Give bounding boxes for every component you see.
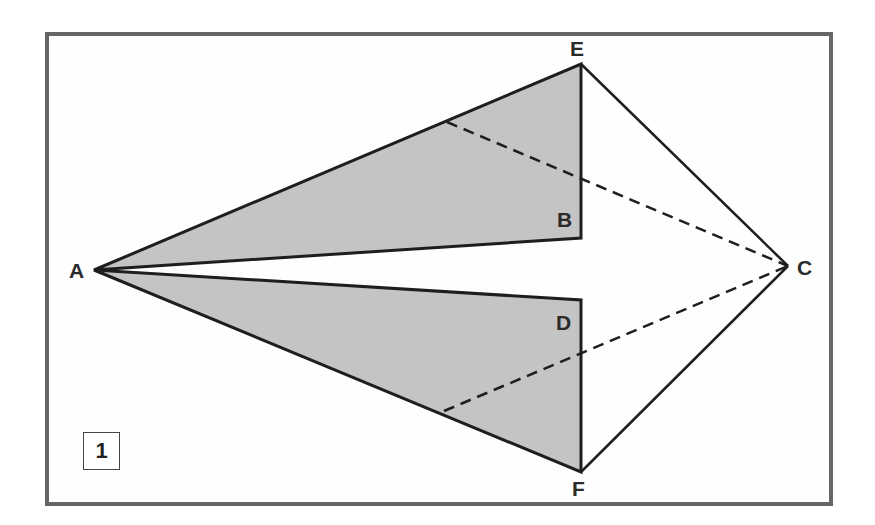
point-label-d: D <box>556 312 571 333</box>
step-number-badge: 1 <box>83 432 120 470</box>
point-label-e: E <box>570 38 584 59</box>
point-label-f: F <box>572 478 585 499</box>
segment-e-c <box>581 64 788 266</box>
point-label-c: C <box>797 257 812 278</box>
point-label-b: B <box>557 209 572 230</box>
diagram-canvas <box>0 0 875 525</box>
lower-shaded-triangle <box>94 270 581 472</box>
step-number: 1 <box>95 438 107 464</box>
segment-c-f <box>581 266 788 472</box>
point-label-a: A <box>69 260 84 281</box>
upper-shaded-triangle <box>94 64 581 270</box>
